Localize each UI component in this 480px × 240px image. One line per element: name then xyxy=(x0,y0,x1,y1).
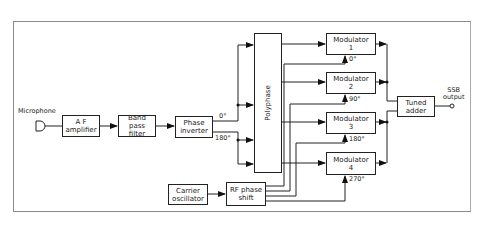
polyphase-block: Polyphase xyxy=(254,33,282,173)
ssb-output-label: SSB output xyxy=(443,87,464,101)
carrier-oscillator-block: Carrier oscillator xyxy=(168,184,208,205)
phase-0-label: 0° xyxy=(219,113,226,120)
modulator-1-block: Modulator 1 xyxy=(326,33,376,55)
band-pass-filter-block: Band pass filter xyxy=(118,115,156,137)
mod3-phase-label: 180° xyxy=(349,136,365,143)
modulator-3-block: Modulator 3 xyxy=(326,112,376,134)
phase-inverter-block: Phase inverter xyxy=(175,116,213,138)
mod4-phase-label: 270° xyxy=(349,176,365,183)
modulator-4-block: Modulator 4 xyxy=(326,152,376,175)
phase-180-label: 180° xyxy=(215,135,231,142)
af-amplifier-block: A F amplifier xyxy=(62,115,100,137)
tuned-adder-block: Tuned adder xyxy=(397,96,435,117)
mod1-phase-label: 0° xyxy=(349,56,356,63)
rf-phase-shift-block: RF phase shift xyxy=(226,182,266,206)
mod2-phase-label: 90° xyxy=(349,96,361,103)
modulator-2-block: Modulator 2 xyxy=(326,72,376,94)
polyphase-label: Polyphase xyxy=(264,85,272,120)
microphone-label: Microphone xyxy=(18,108,56,115)
